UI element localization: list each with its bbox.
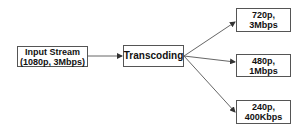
node-label: 400Kbps: [245, 112, 283, 122]
node-label: (1080p, 3Mbps): [20, 57, 85, 67]
arrow-transcoding-to-240p: [184, 56, 235, 112]
arrow-transcoding-to-720p: [184, 22, 235, 56]
output-480p-node: 480p, 1Mbps: [236, 54, 291, 77]
node-label: Input Stream: [25, 47, 80, 57]
transcoding-node: Transcoding: [123, 45, 184, 67]
input-stream-node: Input Stream (1080p, 3Mbps): [17, 46, 88, 67]
output-720p-node: 720p, 3Mbps: [236, 8, 291, 32]
node-label: 480p,: [252, 56, 275, 66]
arrow-transcoding-to-480p: [184, 56, 235, 62]
node-label: 240p,: [252, 102, 275, 112]
node-label: 1Mbps: [249, 66, 278, 76]
output-240p-node: 240p, 400Kbps: [236, 100, 291, 124]
node-label: 3Mbps: [249, 20, 278, 30]
node-label: Transcoding: [124, 51, 183, 61]
node-label: 720p,: [252, 10, 275, 20]
